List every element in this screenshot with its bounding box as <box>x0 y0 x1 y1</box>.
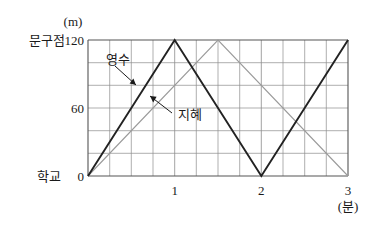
annotation-arrow-yeongsu <box>115 66 136 85</box>
x-tick-label-3: 3 <box>345 183 352 198</box>
y-tick-label-0: 0 <box>78 169 85 184</box>
distance-time-graph: (m) 문구점 120 60 학교 0 1 2 3 (분) 영수 지혜 <box>0 0 377 226</box>
y-axis-bottom-place-label: 학교 <box>37 169 61 184</box>
series-label-jihye: 지혜 <box>178 107 202 122</box>
x-tick-label-2: 2 <box>258 183 265 198</box>
y-tick-label-120: 120 <box>65 33 85 48</box>
y-axis-unit-label: (m) <box>64 14 83 29</box>
y-tick-label-60: 60 <box>71 101 84 116</box>
series-label-yeongsu: 영수 <box>106 52 130 67</box>
graph-figure: (m) 문구점 120 60 학교 0 1 2 3 (분) 영수 지혜 <box>0 0 377 226</box>
x-axis-unit-label: (분) <box>338 199 359 214</box>
x-tick-label-1: 1 <box>171 183 178 198</box>
y-axis-top-place-label: 문구점 <box>29 33 65 48</box>
